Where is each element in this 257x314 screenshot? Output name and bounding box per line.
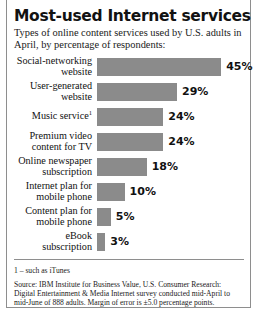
chart-row-label: Internet plan formobile phone (14, 181, 97, 203)
page-subtitle: Types of online content services used by… (14, 27, 244, 50)
chart-bar-area: 10% (97, 179, 244, 204)
chart-row-label: Online newspapersubscription (14, 156, 97, 178)
chart-row: Premium videocontent for TV24% (14, 129, 244, 154)
chart-bar-value: 5% (111, 210, 135, 223)
chart-row: Music service124% (14, 104, 244, 129)
chart-bar-value: 18% (147, 160, 178, 173)
chart-row: Internet plan formobile phone10% (14, 179, 244, 204)
chart-bar-area: 45% (97, 54, 253, 79)
chart-row-label: User-generatedwebsite (14, 81, 97, 103)
chart-bar-area: 24% (97, 104, 244, 129)
chart-bar-value: 10% (125, 185, 156, 198)
chart-row-label: Social-networkingwebsite (14, 56, 97, 78)
chart-bar (97, 208, 111, 226)
chart-bar (97, 83, 177, 101)
chart-bar-area: 29% (97, 79, 244, 104)
chart-bar-value: 24% (163, 110, 194, 123)
chart-bar (97, 58, 221, 76)
chart-bar (97, 158, 147, 176)
infographic-page: Most-used Internet services Types of onl… (0, 0, 257, 314)
footnote-marker: 1 (89, 109, 92, 116)
chart-bar-value: 24% (163, 135, 194, 148)
chart-row: Online newspapersubscription18% (14, 154, 244, 179)
chart-bar-value: 29% (177, 85, 208, 98)
chart-row-label: Content plan formobile phone (14, 206, 97, 228)
bar-chart: Social-networkingwebsite45%User-generate… (14, 54, 244, 254)
source-text: Source: IBM Institute for Business Value… (14, 281, 244, 307)
chart-row-label: Premium videocontent for TV (14, 131, 97, 153)
chart-bar-value: 45% (221, 60, 252, 73)
page-title: Most-used Internet services (14, 8, 244, 25)
chart-bar-area: 24% (97, 129, 244, 154)
footnote-text: 1 – such as iTunes (14, 266, 244, 275)
chart-bar (97, 133, 163, 151)
chart-bar-area: 5% (97, 204, 244, 229)
infographic-content: Most-used Internet services Types of onl… (0, 0, 257, 314)
chart-row: Content plan formobile phone5% (14, 204, 244, 229)
chart-bar (97, 233, 105, 251)
chart-row-label: eBook subscription (14, 231, 97, 253)
chart-row: Social-networkingwebsite45% (14, 54, 244, 79)
chart-row: eBook subscription3% (14, 229, 244, 254)
chart-bar-area: 3% (97, 229, 244, 254)
chart-bar-area: 18% (97, 154, 244, 179)
chart-row: User-generatedwebsite29% (14, 79, 244, 104)
chart-bar-value: 3% (105, 235, 129, 248)
chart-bar (97, 183, 125, 201)
chart-row-label: Music service1 (14, 111, 97, 122)
footer-divider (14, 259, 244, 260)
chart-bar (97, 108, 163, 126)
